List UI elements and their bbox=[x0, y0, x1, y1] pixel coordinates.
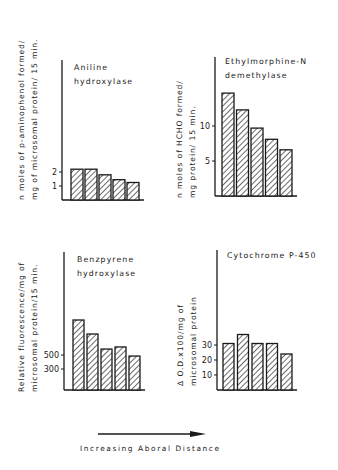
x-direction-label: Increasing Aboral Distance bbox=[80, 444, 221, 453]
chart-title-line-1: Aniline bbox=[74, 63, 108, 72]
y-axis-label-line-2: mg protein/ 15 min. bbox=[188, 105, 197, 198]
bar bbox=[129, 356, 140, 390]
y-axis-label-line-1: n moles of p-aminophenol formed/ bbox=[17, 40, 26, 200]
y-axis-label-line-2: microsomal protein bbox=[189, 296, 198, 386]
bar bbox=[73, 320, 84, 390]
bar bbox=[222, 93, 234, 196]
y-axis-label-line-1: Δ O.D.x100/mg of bbox=[176, 304, 185, 386]
chart-title-line-1: Ethylmorphine-N bbox=[225, 57, 307, 66]
chart-title-line-1: Cytochrome P-450 bbox=[227, 251, 317, 260]
y-tick-label: 5 bbox=[205, 157, 210, 166]
y-tick-label: 30 bbox=[202, 341, 212, 350]
bar bbox=[127, 183, 139, 201]
bar bbox=[99, 175, 111, 200]
y-tick-label: 2 bbox=[52, 168, 57, 177]
y-tick-label: 10 bbox=[200, 122, 210, 131]
bar bbox=[87, 334, 98, 390]
bar bbox=[101, 349, 112, 390]
bars bbox=[71, 169, 139, 200]
y-axis-label-line-1: Relative fluorescence/mg of bbox=[17, 262, 26, 392]
bar bbox=[71, 169, 83, 200]
bar bbox=[238, 335, 249, 391]
chart-title-line-2: hydroxylase bbox=[77, 269, 136, 278]
y-tick-label: 1 bbox=[52, 182, 57, 191]
panel-aniline-hydroxylase: n moles of p-aminophenol formed/ mg of m… bbox=[17, 39, 144, 200]
y-tick-label: 20 bbox=[202, 356, 212, 365]
bar bbox=[280, 150, 292, 196]
y-tick-label: 10 bbox=[202, 371, 212, 380]
bar bbox=[237, 110, 249, 196]
bar bbox=[252, 344, 263, 391]
y-tick-label: 300 bbox=[44, 365, 59, 374]
bar bbox=[251, 128, 263, 196]
bar bbox=[113, 180, 125, 200]
panel-benzpyrene-hydroxylase: Relative fluorescence/mg of microsomal p… bbox=[17, 252, 145, 392]
y-axis-label-line-2: mg of microsomal protein/ 15 min. bbox=[30, 39, 39, 200]
arrow-right-icon bbox=[190, 431, 206, 437]
panel-ethylmorphine-n-demethylase: n moles of HCHO formed/ mg protein/ 15 m… bbox=[175, 57, 307, 198]
bars bbox=[222, 93, 292, 196]
bar bbox=[267, 344, 278, 391]
y-axis-label-line-2: microsomal protein/15 min. bbox=[30, 264, 39, 392]
bar bbox=[266, 139, 278, 196]
y-tick-label: 500 bbox=[44, 351, 59, 360]
y-axis-label-line-1: n moles of HCHO formed/ bbox=[175, 80, 184, 198]
bar bbox=[281, 354, 292, 390]
chart-title-line-2: hydroxylase bbox=[74, 77, 133, 86]
chart-title-line-1: Benzpyrene bbox=[77, 255, 134, 264]
bar bbox=[85, 169, 97, 200]
chart-title-line-2: demethylase bbox=[225, 71, 288, 80]
figure: n moles of p-aminophenol formed/ mg of m… bbox=[0, 0, 338, 470]
bars bbox=[73, 320, 140, 390]
bar bbox=[223, 344, 234, 391]
x-direction-indicator: Increasing Aboral Distance bbox=[80, 431, 221, 453]
bar bbox=[115, 347, 126, 390]
panel-cytochrome-p450: Δ O.D.x100/mg of microsomal protein Cyto… bbox=[176, 250, 317, 390]
bars bbox=[223, 335, 292, 391]
